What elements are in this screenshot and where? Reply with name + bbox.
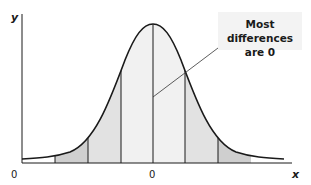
center-tick-label: 0: [149, 169, 155, 180]
y-axis-label: y: [11, 11, 19, 24]
band-left-outer: [55, 0, 88, 163]
annotation-callout: Most differences are 0: [218, 12, 302, 50]
callout-line-1: Most differences: [218, 17, 302, 45]
origin-tick-label: 0: [11, 169, 17, 180]
x-axis-label: x: [291, 168, 300, 181]
callout-line-2: are 0: [218, 45, 302, 59]
